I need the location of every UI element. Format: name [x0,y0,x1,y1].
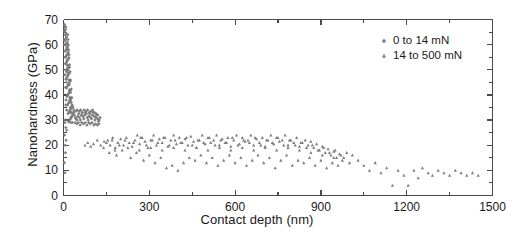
y-tick-label-0: 0 [30,189,58,203]
x-tick-label-900: 900 [311,200,331,214]
y-tick-label-10: 10 [30,163,58,177]
y-tick-label-40: 40 [30,88,58,102]
x-axis-title: Contact depth (nm) [0,212,514,227]
legend-label-1: 14 to 500 mN [393,49,462,61]
x-tick-label-300: 300 [139,200,159,214]
x-tick-label-600: 600 [225,200,245,214]
legend-markers [382,39,386,58]
series-14-to-500-mN-points [83,133,479,186]
x-tick-label-1500: 1500 [479,200,506,214]
legend-label-0: 0 to 14 mN [393,34,449,46]
x-tick-label-0: 0 [60,200,67,214]
nanohardness-scatter-chart: Contact depth (nm) Nanohardness (GPa) 03… [0,0,514,243]
y-tick-label-70: 70 [30,13,58,27]
y-tick-label-30: 30 [30,113,58,127]
y-tick-label-60: 60 [30,38,58,52]
y-tick-label-20: 20 [30,138,58,152]
y-tick-label-50: 50 [30,63,58,77]
x-tick-label-1200: 1200 [393,200,420,214]
series-0-to-14-mN-points [63,23,102,175]
